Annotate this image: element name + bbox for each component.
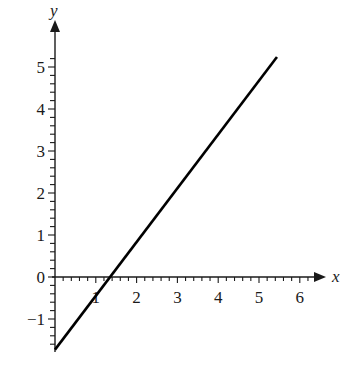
y-tick-label: 2: [37, 184, 46, 203]
y-tick-label: 4: [37, 100, 46, 119]
x-tick-label: 2: [132, 288, 141, 307]
x-axis-label: x: [331, 267, 340, 286]
x-tick-label: 4: [214, 288, 223, 307]
y-axis-label: y: [48, 1, 58, 20]
data-line: [55, 57, 277, 350]
y-tick-label: 3: [37, 142, 46, 161]
y-tick-label: −1: [27, 310, 45, 329]
tick-labels: 123456−1012345: [27, 58, 304, 329]
y-tick-label: 1: [37, 226, 46, 245]
y-tick-label: 5: [37, 58, 46, 77]
x-tick-label: 3: [173, 288, 182, 307]
data-series: [55, 57, 277, 350]
y-axis-arrow-icon: [50, 20, 60, 32]
line-chart: 123456−1012345 x y: [0, 0, 351, 368]
x-tick-label: 5: [255, 288, 264, 307]
x-axis-arrow-icon: [314, 272, 326, 282]
y-tick-label: 0: [37, 268, 46, 287]
x-tick-label: 6: [296, 288, 305, 307]
